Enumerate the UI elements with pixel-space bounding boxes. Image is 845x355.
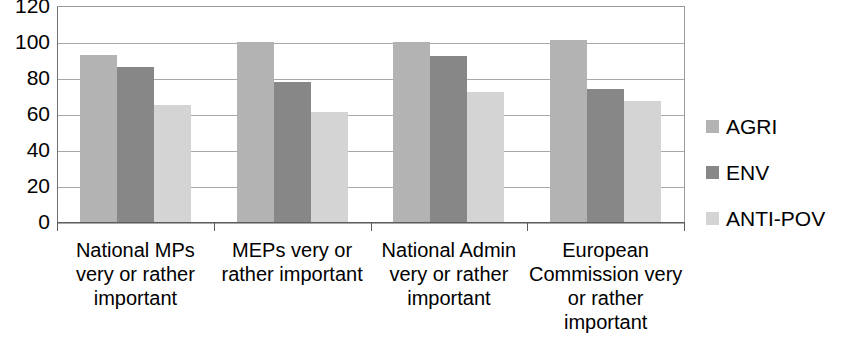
y-axis-tick-label: 80 (2, 67, 50, 88)
bar-agri-4 (550, 40, 587, 222)
legend-item-anti-pov[interactable]: ANTI-POV (706, 195, 845, 241)
gridline (58, 43, 685, 44)
y-axis-tick-label: 60 (2, 103, 50, 124)
category-tick (214, 222, 215, 231)
category-label-line: MEPs very or (204, 238, 381, 262)
category-label: EuropeanCommission veryor ratherimportan… (517, 238, 694, 334)
category-label-line: important (361, 286, 538, 310)
category-label: National Adminvery or ratherimportant (361, 238, 538, 310)
category-label-line: European (517, 238, 694, 262)
category-label-line: very or rather (361, 262, 538, 286)
category-tick (684, 222, 685, 231)
category-label-line: very or rather (47, 262, 224, 286)
chart-legend: AGRIENVANTI-POV (706, 103, 845, 241)
legend-swatch-icon (706, 120, 719, 133)
bar-anti-pov-2 (311, 112, 348, 222)
category-label-line: rather important (204, 262, 381, 286)
bar-anti-pov-3 (467, 92, 504, 222)
category-label-line: important (47, 286, 224, 310)
category-label: MEPs very orrather important (204, 238, 381, 286)
bar-agri-2 (237, 42, 274, 222)
bar-env-3 (430, 56, 467, 222)
category-label-line: National Admin (361, 238, 538, 262)
category-label-line: National MPs (47, 238, 224, 262)
legend-label: ANTI-POV (726, 208, 825, 229)
y-axis-tick-label: 40 (2, 139, 50, 160)
bar-chart: 020406080100120 National MPsvery or rath… (0, 0, 845, 355)
y-axis-tick-labels: 020406080100120 (0, 0, 50, 230)
legend-item-env[interactable]: ENV (706, 149, 845, 195)
gridline (58, 223, 685, 224)
legend-swatch-icon (706, 166, 719, 179)
category-label-line: important (517, 310, 694, 334)
category-label: National MPsvery or ratherimportant (47, 238, 224, 310)
legend-label: ENV (726, 162, 769, 183)
y-axis-tick-label: 120 (2, 0, 50, 16)
y-axis-tick-label: 100 (2, 31, 50, 52)
legend-label: AGRI (726, 116, 777, 137)
legend-swatch-icon (706, 212, 719, 225)
bar-env-4 (587, 89, 624, 222)
bar-env-2 (274, 82, 311, 222)
category-tick (57, 222, 58, 231)
plot-right-border (684, 6, 685, 222)
bar-agri-3 (393, 42, 430, 222)
bar-anti-pov-1 (154, 105, 191, 222)
bar-agri-1 (80, 55, 117, 222)
category-tick (527, 222, 528, 231)
bar-anti-pov-4 (624, 101, 661, 222)
y-axis-tick-label: 0 (2, 211, 50, 232)
category-label-line: Commission very (517, 262, 694, 286)
category-label-line: or rather (517, 286, 694, 310)
bar-env-1 (117, 67, 154, 222)
legend-item-agri[interactable]: AGRI (706, 103, 845, 149)
category-tick (371, 222, 372, 231)
y-axis-tick-label: 20 (2, 175, 50, 196)
